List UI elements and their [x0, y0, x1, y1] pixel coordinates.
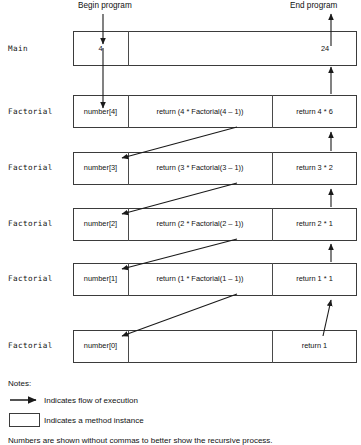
notes-footnote: Numbers are shown without commas to bett…	[8, 436, 353, 445]
row-label-main: Main	[8, 44, 28, 53]
factorial-1-return: return 1 * 1	[272, 274, 357, 283]
legend-flow-label: Indicates flow of execution	[44, 396, 138, 405]
legend-method-instance-label: Indicates a method instance	[44, 416, 144, 425]
factorial-4-body: return (4 * Factorial(4 – 1))	[128, 107, 272, 116]
main-param-value: 4	[73, 44, 128, 53]
row-label-factorial-2: Factorial	[8, 219, 53, 228]
notes-heading: Notes:	[8, 379, 31, 388]
frame-main-divider-1	[128, 31, 129, 66]
legend-method-instance-icon	[9, 413, 40, 427]
factorial-3-return: return 3 * 2	[272, 163, 357, 172]
factorial-4-return: return 4 * 6	[272, 107, 357, 116]
row-label-factorial-3: Factorial	[8, 163, 53, 172]
factorial-1-body: return (1 * Factorial(1 – 1))	[128, 274, 272, 283]
factorial-0-return: return 1	[272, 341, 357, 350]
factorial-2-param: number[2]	[73, 219, 128, 228]
recursion-trace-diagram: Begin program End program Main 4 24 Fact…	[0, 0, 361, 445]
row-label-factorial-1: Factorial	[8, 274, 53, 283]
row-label-factorial-4: Factorial	[8, 107, 53, 116]
factorial-2-body: return (2 * Factorial(2 – 1))	[128, 219, 272, 228]
main-return-value: 24	[300, 44, 350, 53]
frame-factorial-0-divider-1	[128, 330, 129, 363]
factorial-2-return: return 2 * 1	[272, 219, 357, 228]
end-program-caption: End program	[290, 1, 337, 10]
begin-program-caption: Begin program	[78, 1, 132, 10]
factorial-4-param: number[4]	[73, 107, 128, 116]
row-label-factorial-0: Factorial	[8, 341, 53, 350]
factorial-3-param: number[3]	[73, 163, 128, 172]
factorial-1-param: number[1]	[73, 274, 128, 283]
factorial-3-body: return (3 * Factorial(3 – 1))	[128, 163, 272, 172]
factorial-0-param: number[0]	[73, 341, 128, 350]
